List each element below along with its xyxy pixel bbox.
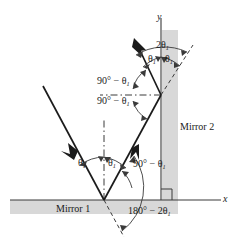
incident-ray [43,86,104,200]
angle-2theta-value: 2θ [156,39,166,50]
subscript-1: 1 [83,162,86,169]
angle-label-180-minus-2theta: 180° − 2θ1 [128,206,171,217]
x-axis-label: x [223,194,227,204]
optics-ray-diagram-figure: y x Mirror 1 Mirror 2 2θ1 θ1 θ1 90° − θ1… [0,0,234,242]
angle-label-90-minus-theta-mirror1: 90° − θ1 [133,159,166,170]
angle-90-minus-theta-value: 90° − θ [97,95,126,106]
mirror-2-label: Mirror 2 [180,122,214,132]
angle-label-theta-mirror1-right: θ1 [108,158,116,169]
subscript-1: 1 [170,58,173,65]
angle-90-minus-theta-value: 90° − θ [133,158,162,169]
angle-label-90-minus-theta-lower: 90° − θ1 [97,96,130,107]
angle-90-minus-theta-value: 90° − θ [97,75,126,86]
angle-label-2theta: 2θ1 [156,40,169,51]
y-axis-label: y [157,12,161,22]
angle-label-theta-mirror2-right: θ1 [165,54,173,65]
subscript-1: 1 [153,58,156,65]
subscript-1: 1 [167,210,170,217]
angle-arc-90-minus-theta-mirror1 [122,171,132,188]
angle-arc-90-minus-theta-upper [133,70,146,89]
angle-180-minus-2theta-value: 180° − 2θ [128,205,167,216]
angle-arc-90-minus-theta-lower [133,101,147,121]
mirror-1-label: Mirror 1 [56,204,90,214]
subscript-1: 1 [162,163,165,170]
subscript-1: 1 [113,162,116,169]
angle-label-theta-mirror1-left: θ1 [78,158,86,169]
angle-label-90-minus-theta-upper: 90° − θ1 [97,76,130,87]
subscript-1: 1 [126,100,129,107]
subscript-1: 1 [126,80,129,87]
angle-label-theta-mirror2-left: θ1 [148,54,156,65]
subscript-1: 1 [166,44,169,51]
reflected-ray-mirror1-to-mirror2 [104,95,161,200]
